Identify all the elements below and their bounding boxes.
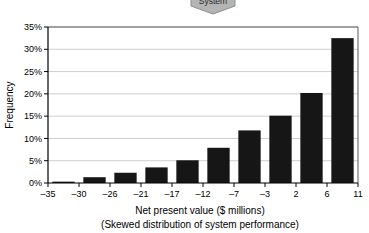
- x-tick-label: –21: [133, 189, 148, 199]
- y-tick-label: 0%: [29, 178, 42, 188]
- x-tick-label: –3: [260, 189, 270, 199]
- x-tick-label: –12: [195, 189, 210, 199]
- bar: [114, 173, 136, 183]
- x-tick-label: –17: [164, 189, 179, 199]
- bar: [331, 38, 353, 183]
- x-tick-label: 2: [293, 189, 298, 199]
- bars-group: [52, 38, 353, 183]
- bar: [207, 148, 229, 183]
- system-callout-tag: System: [190, 0, 236, 16]
- x-tick-label: –30: [71, 189, 86, 199]
- x-tick-label: –26: [102, 189, 117, 199]
- x-axis-ticks: –35–30–26–21–17–12–7–32611: [40, 183, 362, 199]
- y-tick-label: 25%: [24, 67, 42, 77]
- y-tick-label: 5%: [29, 156, 42, 166]
- chart-figure: System 0%5%10%15%20%25%30%35% –35–30–26–…: [0, 0, 369, 233]
- y-tick-label: 30%: [24, 44, 42, 54]
- y-tick-label: 10%: [24, 134, 42, 144]
- y-axis-title: Frequency: [4, 81, 15, 128]
- bar: [300, 93, 322, 183]
- histogram-plot: 0%5%10%15%20%25%30%35% –35–30–26–21–17–1…: [0, 0, 369, 233]
- x-tick-label: 6: [324, 189, 329, 199]
- x-tick-label: –35: [40, 189, 55, 199]
- bar: [238, 130, 260, 183]
- y-tick-label: 15%: [24, 111, 42, 121]
- bar: [83, 177, 105, 183]
- y-axis-ticks: 0%5%10%15%20%25%30%35%: [24, 22, 48, 188]
- x-axis-subtitle: (Skewed distribution of system performan…: [101, 219, 299, 230]
- y-tick-label: 20%: [24, 89, 42, 99]
- system-callout-label: System: [190, 0, 236, 6]
- bar: [269, 116, 291, 183]
- x-axis-title: Net present value ($ millions): [135, 205, 265, 216]
- y-tick-label: 35%: [24, 22, 42, 32]
- x-tick-label: 11: [353, 189, 362, 199]
- bar: [145, 167, 167, 183]
- bar: [176, 160, 198, 183]
- x-tick-label: –7: [229, 189, 239, 199]
